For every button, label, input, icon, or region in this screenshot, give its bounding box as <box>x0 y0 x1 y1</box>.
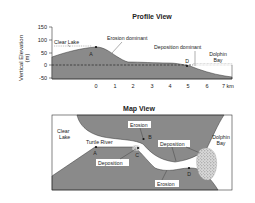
map-label-bay-line2: Bay <box>217 140 226 146</box>
map-label-deposition-left: Deposition <box>98 160 123 166</box>
x-tick-7: 7 km <box>222 83 234 89</box>
map-point-a-marker <box>95 146 97 148</box>
map-label-erosion-bottom: Erosion <box>157 181 175 187</box>
profile-point-a-marker <box>95 46 97 48</box>
erosion-leader <box>112 42 122 53</box>
terrain-profile <box>52 47 232 79</box>
profile-label-erosion: Erosion dominant <box>107 35 148 41</box>
map-point-b-marker <box>142 138 144 140</box>
diagram-canvas: Profile View Vertical Elevation (m) 150 … <box>0 0 255 203</box>
map-label-deposition-right: Deposition <box>160 141 185 147</box>
x-tick-3: 3 <box>150 83 153 89</box>
profile-view: Profile View Vertical Elevation (m) 150 … <box>18 13 234 89</box>
map-view: Map View Clear Lake Turtle River A Erosi… <box>52 105 232 190</box>
map-point-d-marker <box>188 167 190 169</box>
profile-point-a: A <box>89 51 93 57</box>
y-tick-0: 0 <box>44 62 47 68</box>
map-point-c: C <box>135 152 139 158</box>
y-axis: 150 100 50 0 -50 <box>38 24 52 81</box>
profile-title: Profile View <box>132 13 172 20</box>
y-axis-label-line2: (m) <box>24 54 30 63</box>
map-label-erosion-top: Erosion <box>130 122 148 128</box>
x-tick-1: 1 <box>113 83 116 89</box>
map-title: Map View <box>123 105 155 113</box>
map-point-c-marker <box>137 147 139 149</box>
y-tick-50: 50 <box>41 50 47 56</box>
map-point-b: B <box>148 134 152 140</box>
x-tick-5: 5 <box>186 83 189 89</box>
profile-point-d-marker <box>186 65 188 67</box>
bay-surface-line <box>193 64 232 66</box>
y-axis-label: Vertical Elevation (m) <box>18 35 30 81</box>
x-tick-0: 0 <box>94 83 97 89</box>
y-tick-minus-50: -50 <box>39 75 47 81</box>
x-ticks: 0 1 2 3 4 5 6 7 km <box>94 83 234 89</box>
map-point-d: D <box>187 171 191 177</box>
x-tick-6: 6 <box>205 83 208 89</box>
profile-point-d: D <box>185 58 189 64</box>
map-label-river: Turtle River <box>86 139 113 145</box>
profile-label-deposition: Deposition dominant <box>154 44 202 50</box>
profile-label-clear-lake: Clear Lake <box>54 39 79 45</box>
y-tick-100: 100 <box>38 37 47 43</box>
map-label-clear-lake-line2: Lake <box>59 134 70 140</box>
profile-label-bay-line2: Bay <box>214 57 223 63</box>
x-tick-4: 4 <box>168 83 171 89</box>
map-point-a: A <box>93 150 97 156</box>
x-tick-2: 2 <box>131 83 134 89</box>
y-tick-150: 150 <box>38 24 47 30</box>
